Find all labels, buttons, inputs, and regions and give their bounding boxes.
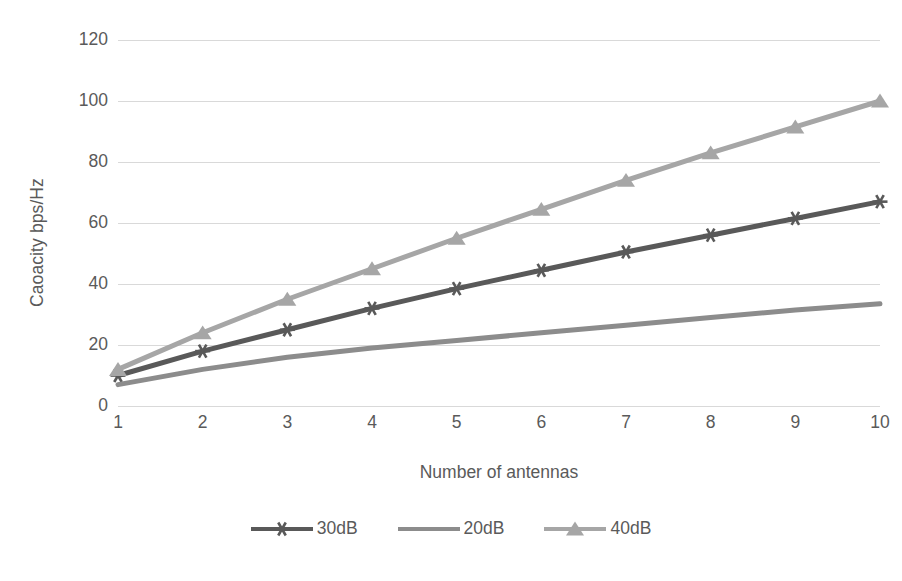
plot-area — [118, 40, 880, 406]
line-chart: Caoacity bps/Hz 020406080100120 12345678… — [0, 0, 902, 581]
x-tick-label: 2 — [178, 414, 228, 432]
legend-label: 20dB — [464, 520, 505, 538]
asterisk-marker-icon — [280, 323, 295, 336]
y-tick-label: 60 — [48, 214, 108, 232]
asterisk-marker-icon — [703, 229, 718, 242]
chart-legend: 30dB20dB40dB — [0, 520, 902, 538]
gridline — [118, 406, 880, 407]
x-tick-label: 10 — [855, 414, 902, 432]
x-tick-label: 9 — [770, 414, 820, 432]
y-tick-label: 0 — [48, 397, 108, 415]
x-tick-label: 5 — [432, 414, 482, 432]
legend-item-40dB[interactable]: 40dB — [544, 520, 651, 538]
y-axis-title: Caoacity bps/Hz — [27, 118, 48, 368]
y-axis-tick-labels: 020406080100120 — [48, 0, 108, 581]
legend-line — [398, 527, 460, 531]
legend-item-20dB[interactable]: 20dB — [398, 520, 505, 538]
legend-swatch — [398, 520, 460, 538]
x-tick-label: 7 — [601, 414, 651, 432]
series-line — [118, 202, 880, 376]
asterisk-marker-icon — [873, 195, 888, 208]
asterisk-marker-icon — [788, 212, 803, 225]
x-tick-label: 3 — [262, 414, 312, 432]
asterisk-marker-icon — [271, 518, 293, 540]
x-tick-label: 8 — [686, 414, 736, 432]
x-tick-label: 6 — [516, 414, 566, 432]
x-tick-label: 4 — [347, 414, 397, 432]
y-tick-label: 80 — [48, 153, 108, 171]
legend-item-30dB[interactable]: 30dB — [251, 520, 358, 538]
asterisk-marker-icon — [365, 302, 380, 315]
asterisk-marker-icon — [619, 245, 634, 258]
triangle-marker-icon — [566, 522, 584, 536]
series-40dB — [109, 94, 889, 376]
legend-label: 30dB — [317, 520, 358, 538]
legend-swatch — [251, 520, 313, 538]
y-tick-label: 120 — [48, 31, 108, 49]
x-axis-title: Number of antennas — [118, 462, 880, 483]
asterisk-marker-icon — [449, 282, 464, 295]
x-tick-label: 1 — [93, 414, 143, 432]
asterisk-marker-icon — [534, 264, 549, 277]
y-tick-label: 40 — [48, 275, 108, 293]
legend-swatch — [544, 520, 606, 538]
series-layer — [118, 40, 880, 406]
y-tick-label: 20 — [48, 336, 108, 354]
y-tick-label: 100 — [48, 92, 108, 110]
legend-label: 40dB — [610, 520, 651, 538]
triangle-marker-icon — [564, 518, 586, 540]
asterisk-marker-icon — [274, 523, 289, 536]
series-line — [118, 101, 880, 369]
asterisk-marker-icon — [195, 345, 210, 358]
x-axis-tick-labels: 12345678910 — [118, 414, 880, 440]
